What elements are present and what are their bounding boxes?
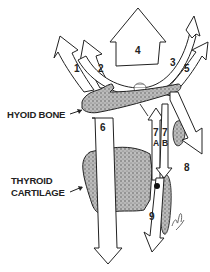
artist-signature bbox=[172, 214, 184, 230]
thyroid-cartilage-shape bbox=[83, 147, 152, 214]
origin-dot bbox=[154, 183, 160, 189]
arrow-8 bbox=[170, 92, 202, 154]
label-arrow-3: 3 bbox=[170, 58, 176, 68]
label-arrow-7b-sub: B bbox=[162, 139, 168, 148]
label-thyroid-line1: THYROID bbox=[11, 176, 52, 186]
label-arrow-2: 2 bbox=[98, 64, 104, 74]
label-arrow-7b: 7 bbox=[162, 128, 168, 138]
label-arrow-7a-sub: A bbox=[153, 139, 159, 148]
label-arrow-1: 1 bbox=[74, 64, 80, 74]
label-arrow-8: 8 bbox=[184, 163, 190, 173]
label-arrow-9: 9 bbox=[149, 212, 155, 222]
label-arrow-5: 5 bbox=[184, 64, 190, 74]
label-arrow-4: 4 bbox=[135, 46, 141, 56]
arrow-4 bbox=[110, 8, 166, 66]
hyoid-tendon-line bbox=[140, 104, 148, 116]
label-arrow-6: 6 bbox=[100, 123, 106, 133]
arrow-3 bbox=[186, 16, 200, 38]
label-hyoid-bone: HYOID BONE bbox=[7, 110, 65, 120]
label-thyroid-line2: CARTILAGE bbox=[11, 188, 65, 198]
label-arrow-7a: 7 bbox=[153, 128, 159, 138]
diagram-canvas bbox=[0, 0, 210, 272]
